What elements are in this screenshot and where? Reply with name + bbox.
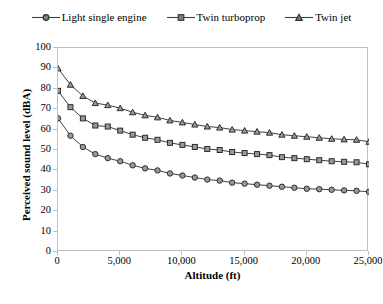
data-point <box>317 186 322 191</box>
data-point <box>93 123 98 128</box>
circle-marker-icon <box>32 12 60 23</box>
series-canvas <box>58 48 369 252</box>
data-point <box>80 116 85 121</box>
data-point <box>192 144 197 149</box>
data-point <box>292 185 297 190</box>
data-point <box>329 159 334 164</box>
data-point <box>255 152 260 157</box>
data-point <box>341 188 346 193</box>
legend-label: Twin turboprop <box>197 12 266 23</box>
data-point <box>80 144 85 149</box>
data-point <box>317 158 322 163</box>
x-axis-tick-label: 10,000 <box>151 255 211 266</box>
data-point <box>93 151 98 156</box>
data-point <box>167 171 172 176</box>
legend-item-twin-jet: Twin jet <box>285 12 351 23</box>
data-point <box>230 150 235 155</box>
y-axis-tick-label: 100 <box>5 42 51 53</box>
data-point <box>68 133 73 138</box>
data-point <box>92 100 98 106</box>
data-point <box>292 156 297 161</box>
data-point <box>254 182 259 187</box>
x-axis-tick-label: 25,000 <box>338 255 383 266</box>
data-point <box>205 146 210 151</box>
data-point <box>143 135 148 140</box>
data-point <box>105 155 110 160</box>
data-point <box>142 166 147 171</box>
data-point <box>304 157 309 162</box>
series-twin-jet <box>58 65 369 144</box>
data-point <box>279 184 284 189</box>
x-axis-tick-label: 5,000 <box>89 255 149 266</box>
data-point <box>367 162 370 167</box>
legend-item-twin-turboprop: Twin turboprop <box>167 12 266 23</box>
data-point <box>130 132 135 137</box>
figure: Light single engine Twin turboprop Twin … <box>0 0 383 304</box>
series-twin-turboprop <box>58 88 369 166</box>
data-point <box>167 140 172 145</box>
plot-area <box>57 47 368 251</box>
x-axis-tick-label: 15,000 <box>214 255 274 266</box>
data-point <box>242 151 247 156</box>
data-point <box>58 116 61 121</box>
data-point <box>180 173 185 178</box>
chart-legend: Light single engine Twin turboprop Twin … <box>0 6 383 28</box>
data-point <box>58 65 61 71</box>
data-point <box>267 153 272 158</box>
data-point <box>217 178 222 183</box>
data-point <box>329 187 334 192</box>
data-point <box>242 181 247 186</box>
square-marker-icon <box>167 12 195 23</box>
data-point <box>267 183 272 188</box>
data-point <box>68 105 73 110</box>
legend-item-light-single-engine: Light single engine <box>32 12 147 23</box>
data-point <box>118 159 123 164</box>
data-point <box>192 175 197 180</box>
data-point <box>205 177 210 182</box>
data-point <box>180 142 185 147</box>
data-point <box>155 137 160 142</box>
data-point <box>354 160 359 165</box>
data-point <box>366 189 369 194</box>
data-point <box>105 124 110 129</box>
data-point <box>155 168 160 173</box>
legend-label: Light single engine <box>62 12 147 23</box>
data-point <box>217 148 222 153</box>
data-point <box>130 163 135 168</box>
legend-label: Twin jet <box>315 12 351 23</box>
data-point <box>118 128 123 133</box>
data-point <box>279 155 284 160</box>
data-point <box>229 180 234 185</box>
x-axis-tick-label: 0 <box>27 255 87 266</box>
x-axis-tick-label: 20,000 <box>276 255 336 266</box>
triangle-marker-icon <box>285 12 313 23</box>
data-point <box>342 159 347 164</box>
data-point <box>58 88 61 93</box>
x-axis-title: Altitude (ft) <box>57 269 368 281</box>
y-axis-title: Perceived sound level (dBA) <box>20 53 32 257</box>
data-point <box>304 186 309 191</box>
data-point <box>354 188 359 193</box>
x-axis-tick-labels: 05,00010,00015,00020,00025,000 <box>57 255 368 269</box>
